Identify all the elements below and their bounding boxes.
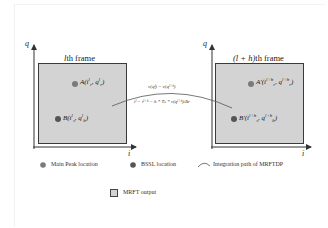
- mrft-output-square-icon: [111, 190, 118, 197]
- point-b-dot: [55, 116, 61, 122]
- point-b-prime-label: B'(il+hs, ql+hb): [239, 114, 277, 122]
- left-frame-title: lth frame: [64, 53, 95, 63]
- legend-bssl-label: BSSL location: [141, 161, 176, 167]
- legend-integration-path-label: Integration path of MRFTDP: [213, 161, 283, 167]
- right-frame-box: [216, 64, 304, 144]
- diagram-graphics: [0, 0, 328, 228]
- point-a-label: A(ilr, qlr): [80, 78, 104, 86]
- point-b-prime-dot: [231, 116, 237, 122]
- equation-velocity: v(qˡ) = v(qˡ⁺ʰ): [148, 83, 175, 89]
- integration-arc-icon: [198, 163, 210, 167]
- legend-mrft-output-label: MRFT output: [123, 189, 156, 195]
- diagram-canvas: lth frame q i A(ilr, qlr) B(ils, qlb) (l…: [0, 0, 328, 228]
- point-a-prime-dot: [248, 81, 254, 87]
- bssl-dot-icon: [130, 162, 136, 168]
- equation-position: iˡ = iˡ⁺ʰ − h * Tₛ * v(qˡ⁺ʰ)/Δr: [134, 98, 190, 104]
- right-frame-title: (l + h)th frame: [233, 53, 284, 63]
- left-y-axis-label: q: [25, 39, 29, 48]
- right-y-axis-label: q: [203, 39, 207, 48]
- left-frame-box: [39, 64, 127, 144]
- legend-main-peak-label: Main Peak location: [51, 161, 98, 167]
- point-a-prime-label: A'(il+hr, ql+hr): [256, 78, 293, 86]
- main-peak-dot-icon: [40, 162, 46, 168]
- point-b-label: B(ils, qlb): [63, 114, 88, 122]
- point-a-dot: [72, 81, 78, 87]
- left-x-axis-label: i: [128, 149, 130, 158]
- right-x-axis-label: i: [302, 149, 304, 158]
